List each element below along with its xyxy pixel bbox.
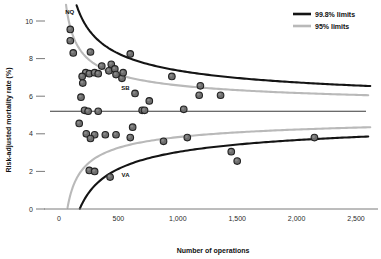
data-point-highlight xyxy=(114,72,117,75)
y-tick-label: 2 xyxy=(29,168,33,175)
data-point-highlight xyxy=(84,132,87,135)
y-tick-label: 6 xyxy=(29,93,33,100)
data-point-highlight xyxy=(87,168,90,171)
data-point-highlight xyxy=(79,95,82,98)
point-annotation-label: VA xyxy=(122,172,131,178)
data-point-highlight xyxy=(121,71,124,74)
data-point-highlight xyxy=(108,175,111,178)
data-point-highlight xyxy=(128,52,131,55)
y-axis: 0246810 xyxy=(25,18,45,213)
data-point-highlight xyxy=(128,135,131,138)
data-point-highlight xyxy=(107,69,110,72)
data-point-highlight xyxy=(88,50,91,53)
x-tick-label: 2,500 xyxy=(347,215,365,222)
x-tick-label: 1,000 xyxy=(169,215,187,222)
x-tick-label: 2,000 xyxy=(288,215,306,222)
funnel-plot: 0246810 05001,0001,5002,0002,500 NQSBVA … xyxy=(0,0,381,259)
data-point-highlight xyxy=(103,133,106,136)
data-point-highlight xyxy=(147,99,150,102)
point-annotations-group: NQSBVA xyxy=(65,9,130,177)
data-point-highlight xyxy=(109,62,112,65)
data-point-highlight xyxy=(312,135,315,138)
point-annotation-label: SB xyxy=(121,85,130,91)
data-point-highlight xyxy=(170,74,173,77)
legend-label-998: 99.8% limits xyxy=(315,11,355,18)
x-tick-label: 0 xyxy=(57,215,61,222)
point-annotation-label: NQ xyxy=(65,9,74,15)
x-tick-label: 1,500 xyxy=(228,215,246,222)
data-point-highlight xyxy=(68,27,71,30)
data-point-highlight xyxy=(142,108,145,111)
data-point-highlight xyxy=(161,139,164,142)
data-point-highlight xyxy=(229,149,232,152)
data-point-highlight xyxy=(77,121,80,124)
data-point-highlight xyxy=(96,71,99,74)
data-point-highlight xyxy=(218,93,221,96)
y-tick-label: 8 xyxy=(29,55,33,62)
data-point-highlight xyxy=(96,109,99,112)
data-point-highlight xyxy=(182,107,185,110)
data-point-highlight xyxy=(86,109,89,112)
legend-label-95: 95% limits xyxy=(315,23,349,30)
data-point-highlight xyxy=(113,67,116,70)
y-tick-label: 10 xyxy=(25,18,33,25)
data-point-highlight xyxy=(93,169,96,172)
data-points-group xyxy=(67,26,318,180)
data-point-highlight xyxy=(131,125,134,128)
data-point-highlight xyxy=(100,64,103,67)
data-point-highlight xyxy=(235,159,238,162)
data-point-highlight xyxy=(81,81,84,84)
data-point-highlight xyxy=(93,133,96,136)
y-axis-title: Risk-adjusted mortality rate (%) xyxy=(5,67,13,172)
x-axis-title: Number of operations xyxy=(177,247,250,255)
plot-canvas: 0246810 05001,0001,5002,0002,500 NQSBVA … xyxy=(0,0,381,259)
legend: 99.8% limits 95% limits xyxy=(293,11,355,30)
data-point-highlight xyxy=(114,133,117,136)
x-axis: 05001,0001,5002,0002,500 xyxy=(57,215,365,222)
data-point-highlight xyxy=(120,76,123,79)
data-point-highlight xyxy=(197,93,200,96)
data-point-highlight xyxy=(88,136,91,139)
data-point-highlight xyxy=(185,135,188,138)
y-tick-label: 0 xyxy=(29,206,33,213)
x-tick-label: 500 xyxy=(113,215,125,222)
data-point-highlight xyxy=(198,84,201,87)
data-point-highlight xyxy=(80,74,83,77)
data-point-highlight xyxy=(133,91,136,94)
data-point-highlight xyxy=(71,51,74,54)
data-point-highlight xyxy=(87,71,90,74)
y-tick-label: 4 xyxy=(29,130,33,137)
data-point-highlight xyxy=(68,39,71,42)
